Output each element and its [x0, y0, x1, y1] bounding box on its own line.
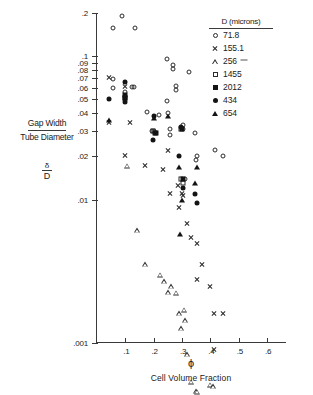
y-axis-tick: .02 [92, 156, 98, 157]
y-axis-tick-label: .06 [77, 85, 88, 93]
x-axis-tick-label: .1 [123, 348, 129, 356]
data-point-256 [161, 279, 167, 284]
data-point-155.1 [220, 311, 226, 317]
data-point-2012 [153, 131, 158, 136]
data-point-256 [165, 290, 171, 295]
legend-entry-434: 434 [207, 94, 283, 107]
data-point-155.1 [167, 190, 173, 196]
y-axis-tick-label: .2 [82, 10, 88, 18]
legend-title: D (microns) [209, 18, 273, 29]
data-point-155.1 [142, 162, 148, 168]
y-axis-tick-label: .05 [77, 96, 88, 104]
data-point-654 [194, 164, 200, 169]
data-point-256 [173, 290, 179, 295]
legend-marker-open-triangle-icon [207, 58, 223, 66]
data-point-71.8 [212, 148, 217, 153]
x-axis-tick: .3 [182, 338, 183, 343]
y-axis-tick-label: .07 [77, 75, 88, 83]
y-axis-tick: .08 [92, 70, 98, 71]
x-cross-icon [212, 46, 218, 52]
data-point-654 [165, 114, 171, 119]
legend: D (microns) 71.8155.125614552012434654 [207, 18, 283, 120]
data-point-256 [157, 272, 163, 277]
data-point-71.8 [187, 70, 192, 75]
data-point-71.8 [167, 127, 172, 132]
data-point-256 [178, 326, 184, 331]
data-point-71.8 [165, 56, 170, 61]
y-axis-tick: .001 [92, 343, 98, 344]
open-triangle-icon [212, 59, 218, 64]
y-axis-tick-label: .04 [77, 110, 88, 118]
data-point-654 [177, 231, 183, 236]
y-axis-tick: .09 [92, 63, 98, 64]
legend-marker-open-circle-icon [207, 32, 223, 40]
y-axis-tick: .01 [92, 200, 98, 201]
data-point-155.1 [207, 284, 213, 290]
y-axis-symbol-numerator: δ [42, 161, 52, 171]
data-point-155.1 [160, 166, 166, 172]
legend-entry-label: 155.1 [223, 44, 244, 53]
open-square-icon [213, 72, 218, 77]
y-axis-tick: .05 [92, 99, 98, 100]
data-point-155.1 [211, 311, 217, 317]
legend-entry-71.8: 71.8 [207, 29, 283, 42]
legend-entry-256: 256 [207, 55, 283, 68]
data-point-256 [124, 163, 130, 168]
legend-entry-label: 71.8 [223, 31, 239, 40]
data-point-256 [194, 389, 200, 394]
y-axis-tick: .2 [92, 13, 98, 14]
legend-entry-label: 256 [223, 57, 237, 66]
data-point-256 [210, 383, 216, 388]
data-point-71.8 [133, 25, 138, 30]
data-point-71.8 [110, 85, 115, 90]
legend-marker-filled-triangle-icon [207, 110, 223, 118]
data-point-71.8 [192, 131, 197, 136]
filled-square-icon [213, 85, 218, 90]
data-point-256 [181, 307, 187, 312]
data-point-654 [106, 117, 112, 122]
legend-entry-1455: 1455 [207, 68, 283, 81]
y-axis-tick-label: .001 [73, 340, 88, 348]
data-point-155.1 [165, 148, 171, 154]
x-axis-tick: .4 [210, 338, 211, 343]
data-point-434 [106, 97, 111, 102]
legend-entry-654: 654 [207, 107, 283, 120]
y-axis-tick-label: .03 [77, 128, 88, 136]
data-point-155.1 [194, 276, 200, 282]
data-point-256 [134, 227, 140, 232]
data-point-654 [192, 181, 198, 186]
filled-circle-icon [213, 98, 218, 103]
data-point-434 [123, 80, 128, 85]
data-point-2012 [180, 176, 185, 181]
data-point-155.1 [122, 84, 128, 90]
y-axis-symbol-denominator: D [4, 171, 90, 181]
data-point-71.8 [131, 84, 136, 89]
data-point-155.1 [194, 240, 200, 246]
scatter-plot-figure: Gap Width Tube Diameter δ D .2.1.09.08.0… [0, 0, 313, 395]
data-point-155.1 [211, 347, 217, 353]
x-axis-caption: Cell Volume Fraction [86, 374, 296, 383]
x-axis-tick: .6 [267, 338, 268, 343]
legend-marker-open-square-icon [207, 71, 223, 79]
legend-marker-filled-square-icon [207, 84, 223, 92]
data-point-434 [123, 99, 128, 104]
data-point-434 [180, 186, 185, 191]
x-axis-symbol: ϕ [96, 358, 286, 369]
legend-entry-155.1: 155.1 [207, 42, 283, 55]
y-axis-label-numerator: Gap Width [28, 118, 66, 131]
data-point-71.8 [111, 25, 116, 30]
data-point-256 [168, 284, 174, 289]
y-axis-tick: .07 [92, 78, 98, 79]
y-axis-tick: .03 [92, 131, 98, 132]
data-point-434 [176, 154, 181, 159]
data-point-155.1 [127, 120, 133, 126]
legend-entry-label: 654 [223, 109, 237, 118]
data-point-434 [178, 125, 183, 130]
data-point-155.1 [122, 152, 128, 158]
x-axis-tick: .5 [239, 338, 240, 343]
data-point-155.1 [199, 262, 205, 268]
filled-triangle-icon [212, 111, 218, 116]
y-axis-label-denominator: Tube Diameter [20, 132, 73, 142]
data-point-256 [182, 318, 188, 323]
legend-marker-filled-circle-icon [207, 97, 223, 105]
